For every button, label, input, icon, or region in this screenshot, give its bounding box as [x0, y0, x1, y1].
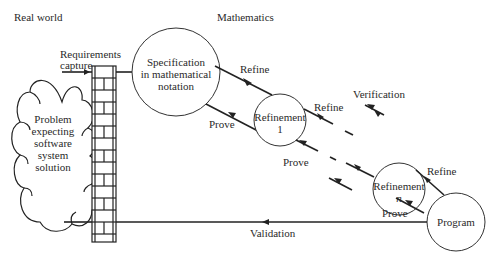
- brick-wall: [92, 66, 116, 242]
- verification-label: Verification: [353, 88, 405, 100]
- ref1-line-2: 1: [277, 123, 283, 135]
- cloud-line-4: system: [38, 149, 69, 161]
- diagram-canvas: Real world Mathematics Problem expecting…: [0, 0, 487, 260]
- program-label: Program: [437, 216, 475, 228]
- validation-arrowhead: [262, 219, 269, 225]
- validation-label: Validation: [250, 227, 296, 239]
- refn-line-1: Refinement: [373, 180, 424, 192]
- cloud-line-1: Problem: [34, 113, 72, 125]
- header-mathematics: Mathematics: [217, 11, 274, 23]
- prove-label-1: Prove: [209, 118, 235, 130]
- cloud-line-2: expecting: [32, 125, 75, 137]
- prove-label-2: Prove: [283, 156, 309, 168]
- spec-line-2: in mathematical: [141, 68, 212, 80]
- refine-label-1: Refine: [240, 63, 269, 75]
- prove-label-4: Prove: [382, 207, 408, 219]
- cloud-line-5: solution: [35, 161, 71, 173]
- ref1-line-1: Refinement: [254, 111, 305, 123]
- refine-label-2: Refine: [314, 101, 343, 113]
- prove-edge-2: [296, 140, 318, 151]
- prove-dash-segment: [330, 157, 336, 160]
- cloud-line-3: software: [34, 137, 72, 149]
- requirements-label-2: capture: [60, 59, 92, 71]
- refine-edge-3-in: [346, 163, 374, 177]
- spec-line-1: Specification: [147, 56, 206, 68]
- refine-label-4: Refine: [427, 165, 456, 177]
- header-real-world: Real world: [14, 11, 63, 23]
- spec-line-3: notation: [158, 80, 195, 92]
- verification-edge: [365, 105, 384, 115]
- refine-dash-segment: [345, 131, 353, 135]
